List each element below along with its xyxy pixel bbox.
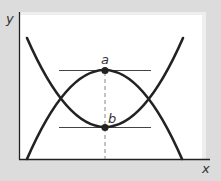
- x-axis-label: x: [201, 161, 210, 176]
- plot-panel: [19, 15, 202, 159]
- diagram-canvas: a b y x: [0, 0, 221, 181]
- parabola-diagram: a b y x: [0, 0, 221, 181]
- point-a-label: a: [101, 52, 109, 67]
- y-axis-label: y: [5, 11, 14, 26]
- point-a: [101, 67, 108, 74]
- point-b-label: b: [108, 111, 116, 126]
